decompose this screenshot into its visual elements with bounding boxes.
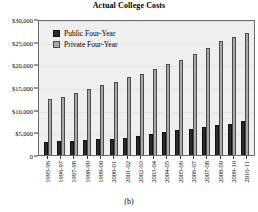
x-tick: 1997-98	[67, 156, 80, 200]
x-tick: 2010-11	[240, 156, 253, 200]
bar-group	[239, 21, 252, 155]
bar-private[interactable]	[166, 64, 170, 155]
x-tick-label: 2002-03	[136, 161, 143, 183]
chart-title: Actual College Costs	[0, 1, 258, 10]
x-tick-label: 1996-97	[56, 161, 63, 183]
x-tick-label: 2006-07	[190, 161, 197, 183]
bar-private[interactable]	[140, 74, 144, 155]
x-tick-label: 1997-98	[70, 161, 77, 183]
legend-label: Public Four-Year	[64, 29, 115, 38]
x-tick-mark	[60, 156, 61, 159]
bar-group	[173, 21, 186, 155]
bar-private[interactable]	[193, 54, 197, 155]
x-tick-label: 2007-08	[203, 161, 210, 183]
x-tick-label: 2003-04	[150, 161, 157, 183]
x-tick: 2001-02	[120, 156, 133, 200]
x-tick: 2008-09	[213, 156, 226, 200]
x-tick-mark	[127, 156, 128, 159]
x-tick-mark	[47, 156, 48, 159]
y-tick-label: $20,000	[12, 62, 33, 69]
bar-private[interactable]	[179, 60, 183, 155]
legend-swatch-icon	[53, 30, 60, 37]
bar-private[interactable]	[74, 93, 78, 155]
x-tick-mark	[73, 156, 74, 159]
bar-private[interactable]	[127, 77, 131, 155]
bar-private[interactable]	[232, 37, 236, 155]
x-tick-mark	[180, 156, 181, 159]
x-tick: 2004-05	[160, 156, 173, 200]
x-tick: 1995-96	[40, 156, 53, 200]
x-tick: 2009-10	[226, 156, 239, 200]
bar-private[interactable]	[114, 82, 118, 155]
x-tick-mark	[140, 156, 141, 159]
x-tick-mark	[246, 156, 247, 159]
x-tick-mark	[87, 156, 88, 159]
bar-group	[212, 21, 225, 155]
y-tick-label: $5,000	[15, 130, 33, 137]
x-tick-label: 1995-96	[43, 161, 50, 183]
x-tick: 2000-01	[107, 156, 120, 200]
x-tick-label: 1998-99	[83, 161, 90, 183]
y-tick-label: $25,000	[12, 39, 33, 46]
figure-caption: (b)	[0, 197, 258, 206]
x-tick: 2007-08	[200, 156, 213, 200]
x-tick-mark	[100, 156, 101, 159]
x-tick-label: 2009-10	[230, 161, 237, 183]
bar-private[interactable]	[206, 48, 210, 155]
y-tick-label: 0	[30, 153, 33, 160]
legend-label: Private Four-Year	[64, 40, 117, 49]
bar-group	[160, 21, 173, 155]
y-axis: 0$5,000$10,000$15,000$20,000$25,000$30,0…	[0, 20, 38, 156]
legend-item[interactable]: Public Four-Year	[53, 28, 117, 39]
bar-group	[226, 21, 239, 155]
x-tick-label: 2000-01	[110, 161, 117, 183]
x-tick: 2003-04	[147, 156, 160, 200]
x-tick-label: 2001-02	[123, 161, 130, 183]
bar-group	[147, 21, 160, 155]
x-tick-mark	[153, 156, 154, 159]
x-tick-mark	[206, 156, 207, 159]
x-tick-container: 1995-961996-971997-981998-991999-002000-…	[40, 156, 253, 200]
x-tick-label: 2004-05	[163, 161, 170, 183]
bar-private[interactable]	[153, 69, 157, 155]
bar-group	[199, 21, 212, 155]
x-tick-mark	[166, 156, 167, 159]
x-tick-label: 2008-09	[216, 161, 223, 183]
bar-private[interactable]	[61, 97, 65, 155]
x-tick-mark	[113, 156, 114, 159]
bar-group	[186, 21, 199, 155]
bar-private[interactable]	[219, 41, 223, 155]
bar-private[interactable]	[100, 85, 104, 155]
legend-swatch-icon	[53, 41, 60, 48]
figure-panel: Actual College Costs 0$5,000$10,000$15,0…	[0, 0, 258, 212]
x-tick: 1998-99	[80, 156, 93, 200]
y-tick-label: $15,000	[12, 85, 33, 92]
legend-item[interactable]: Private Four-Year	[53, 39, 117, 50]
bar-group	[120, 21, 133, 155]
x-tick: 2006-07	[186, 156, 199, 200]
bar-private[interactable]	[48, 99, 52, 155]
x-tick-label: 2005-06	[176, 161, 183, 183]
x-tick: 2002-03	[133, 156, 146, 200]
y-tick-label: $30,000	[12, 17, 33, 24]
x-tick-mark	[220, 156, 221, 159]
x-tick: 1999-00	[93, 156, 106, 200]
bar-private[interactable]	[245, 33, 249, 155]
x-tick-mark	[233, 156, 234, 159]
bar-group	[133, 21, 146, 155]
x-tick-label: 2010-11	[243, 161, 250, 182]
x-tick-mark	[193, 156, 194, 159]
x-tick: 1996-97	[53, 156, 66, 200]
legend: Public Four-YearPrivate Four-Year	[53, 28, 117, 50]
bar-private[interactable]	[87, 89, 91, 155]
x-axis: 1995-961996-971997-981998-991999-002000-…	[38, 156, 255, 200]
x-tick-label: 1999-00	[96, 161, 103, 183]
x-tick: 2005-06	[173, 156, 186, 200]
y-tick-label: $10,000	[12, 107, 33, 114]
